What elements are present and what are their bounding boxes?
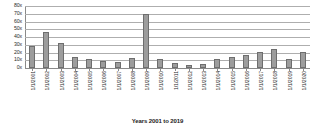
bar-slot [54, 6, 68, 68]
x-axis-tick-label: 1/1/2010 [160, 71, 165, 90]
y-axis-tick-label: 20x [14, 50, 22, 55]
x-axis-tick-label: 1/1/2003 [60, 71, 65, 90]
x-axis-tick-label: 1/1/2001 [32, 71, 37, 90]
bar [286, 59, 292, 68]
bar-series [25, 6, 310, 68]
x-axis-tick-labels: 1/1/20011/1/20021/1/20031/1/20041/1/2005… [25, 69, 310, 111]
x-axis-tick-label: 1/1/2013 [203, 71, 208, 90]
bar-slot [125, 6, 139, 68]
x-axis-tick-label: 1/1/2017 [260, 71, 265, 90]
bar [214, 59, 220, 68]
y-axis-tick-label: 40x [14, 34, 22, 39]
bar [86, 59, 92, 68]
y-axis-tick-label: 60x [14, 19, 22, 24]
x-axis-tick-label: 1/1/2002 [46, 71, 51, 90]
y-axis-tick-label: 70x [14, 11, 22, 16]
bar [186, 65, 192, 68]
bar [300, 52, 306, 68]
y-axis-tick-labels: 80x70x60x50x40x30x20x10x0x [0, 0, 24, 74]
y-axis-tick-label: 10x [14, 58, 22, 63]
x-axis-tick-label: 1/1/2014 [217, 71, 222, 90]
bar-slot [267, 6, 281, 68]
bar [172, 63, 178, 68]
x-axis-tick-label: 1/1/2008 [131, 71, 136, 90]
bar-slot [253, 6, 267, 68]
bar-slot [82, 6, 96, 68]
bar [143, 14, 149, 68]
bar-slot [68, 6, 82, 68]
bar-slot [225, 6, 239, 68]
x-axis-tick-label: 1/1/2019 [288, 71, 293, 90]
bar-chart: 80x70x60x50x40x30x20x10x0x 1/1/20011/1/2… [0, 0, 315, 128]
bar-slot [168, 6, 182, 68]
bar-slot [96, 6, 110, 68]
y-axis-tick-label: 0x [17, 65, 22, 70]
y-axis-tick-label: 30x [14, 42, 22, 47]
bar-slot [239, 6, 253, 68]
bar-slot [139, 6, 153, 68]
plot-area [25, 6, 310, 68]
bar-slot [196, 6, 210, 68]
bar-slot [111, 6, 125, 68]
bar [257, 52, 263, 68]
bar [43, 32, 49, 68]
bar [243, 55, 249, 68]
y-axis-tick-label: 80x [14, 3, 22, 8]
x-axis-tick-label: 1/1/2004 [74, 71, 79, 90]
bar [129, 58, 135, 68]
x-axis-tick-label: 1/1/2012 [188, 71, 193, 90]
y-axis-tick-label: 50x [14, 27, 22, 32]
x-axis-tick-label: 1/1/2020 [302, 71, 307, 90]
bar-slot [25, 6, 39, 68]
x-axis-tick-label: 1/1/2009 [146, 71, 151, 90]
bar-slot [282, 6, 296, 68]
x-axis-tick-label: 1/1/2007 [117, 71, 122, 90]
bar-slot [210, 6, 224, 68]
bar [157, 59, 163, 68]
x-axis-tick-label: 1/1/2005 [89, 71, 94, 90]
bar-slot [182, 6, 196, 68]
x-axis-tick-label: 1/1/2015 [231, 71, 236, 90]
bar-slot [296, 6, 310, 68]
bar-slot [153, 6, 167, 68]
x-axis-tick-label: 1/1/2006 [103, 71, 108, 90]
bar [115, 62, 121, 68]
bar [200, 64, 206, 68]
bar [271, 49, 277, 68]
bar [58, 43, 64, 68]
x-axis-tick-label: 1/1/2011 [174, 71, 179, 90]
x-axis-tick-label: 1/1/2016 [245, 71, 250, 90]
bar [29, 46, 35, 68]
bar [229, 57, 235, 68]
bar [100, 61, 106, 68]
x-axis-tick-label: 1/1/2018 [274, 71, 279, 90]
bar-slot [39, 6, 53, 68]
x-axis-title: Years 2001 to 2019 [0, 118, 315, 124]
bar [72, 57, 78, 68]
